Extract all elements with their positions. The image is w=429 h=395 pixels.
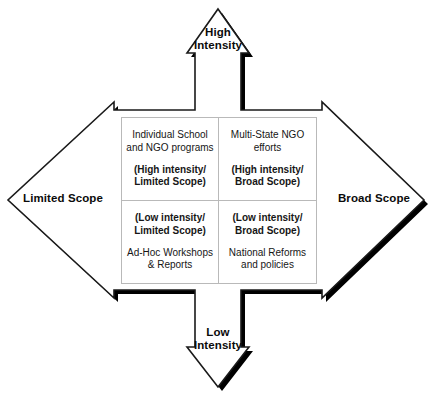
quadrant-example-text: Ad-Hoc Workshops & Reports: [127, 247, 213, 271]
quadrant-example-text: Individual School and NGO programs: [126, 129, 213, 153]
quadrant-classification-text: (High intensity/ Limited Scope): [134, 164, 206, 188]
quadrant-low-intensity-broad-scope: (Low intensity/ Broad Scope) National Re…: [219, 201, 316, 284]
quadrant-high-intensity-broad-scope: Multi-State NGO efforts (High intensity/…: [219, 118, 316, 201]
axis-label-limited-scope: Limited Scope: [14, 192, 112, 205]
axis-label-high-intensity: High Intensity: [176, 26, 260, 52]
axis-label-broad-scope: Broad Scope: [327, 192, 421, 205]
quadrant-classification-text: (High intensity/ Broad Scope): [231, 164, 303, 188]
quadrant-diagram: High Intensity Low Intensity Limited Sco…: [0, 0, 429, 395]
quadrant-example-text: Multi-State NGO efforts: [231, 129, 304, 153]
quadrant-low-intensity-limited-scope: (Low intensity/ Limited Scope) Ad-Hoc Wo…: [122, 201, 219, 284]
quadrant-example-text: National Reforms and policies: [229, 247, 306, 271]
axis-label-low-intensity: Low Intensity: [176, 326, 260, 352]
quadrant-high-intensity-limited-scope: Individual School and NGO programs (High…: [122, 118, 219, 201]
quadrant-classification-text: (Low intensity/ Limited Scope): [134, 212, 206, 236]
quadrant-classification-text: (Low intensity/ Broad Scope): [233, 212, 303, 236]
quadrant-grid: Individual School and NGO programs (High…: [121, 117, 317, 284]
